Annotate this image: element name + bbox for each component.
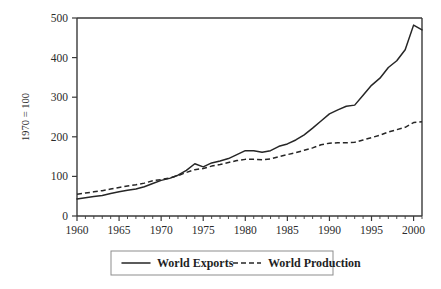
- y-axis-title: 1970 = 100: [20, 93, 31, 141]
- y-tick-label-200: 200: [51, 131, 69, 143]
- x-tick-label-2000: 2000: [402, 224, 425, 236]
- x-tick-label-1985: 1985: [276, 224, 299, 236]
- x-tick-label-1990: 1990: [318, 224, 341, 236]
- x-tick-label-1960: 1960: [66, 224, 89, 236]
- x-tick-label-1995: 1995: [360, 224, 383, 236]
- x-tick-label-1980: 1980: [234, 224, 257, 236]
- y-tick-label-500: 500: [51, 12, 69, 24]
- y-tick-label-100: 100: [51, 170, 69, 182]
- chart-figure: 0100200300400500 19601965197019751980198…: [0, 0, 441, 289]
- chart-legend: World Exports World Production: [111, 251, 361, 275]
- y-tick-label-400: 400: [51, 52, 69, 64]
- y-tick-label-300: 300: [51, 91, 69, 103]
- chart-background: [0, 0, 441, 289]
- y-tick-label-0: 0: [62, 210, 68, 222]
- x-tick-label-1975: 1975: [192, 224, 215, 236]
- x-tick-labels: 196019651970197519801985199019952000: [66, 224, 426, 236]
- legend-label-world-exports: World Exports: [157, 256, 234, 270]
- x-tick-label-1970: 1970: [150, 224, 173, 236]
- legend-label-world-production: World Production: [268, 256, 361, 270]
- line-chart: 0100200300400500 19601965197019751980198…: [0, 0, 441, 289]
- x-tick-label-1965: 1965: [108, 224, 131, 236]
